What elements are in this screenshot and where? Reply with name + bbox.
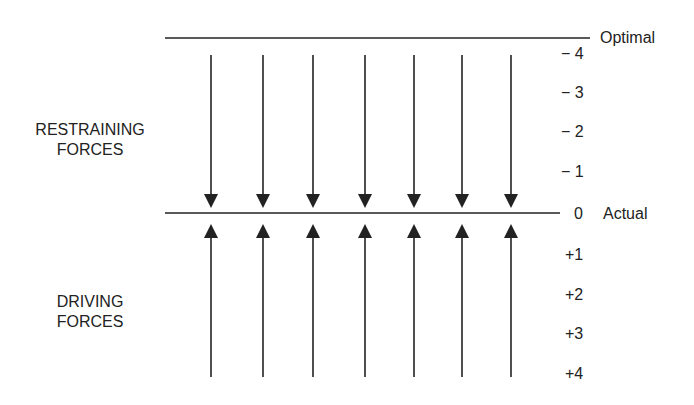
scale-tick-minus-4: − 4 xyxy=(561,44,584,64)
arrow-down-icon xyxy=(306,194,320,208)
arrow-down-icon xyxy=(407,194,421,208)
driving-forces-label: DRIVING FORCES xyxy=(35,292,145,332)
arrow-down-icon xyxy=(358,194,372,208)
driving-label-line2: FORCES xyxy=(35,312,145,332)
arrow-up-icon xyxy=(358,224,372,238)
scale-tick-plus-4: +4 xyxy=(565,364,583,384)
restraining-forces-label: RESTRAINING FORCES xyxy=(20,120,160,160)
restraining-label-line2: FORCES xyxy=(20,140,160,160)
arrow-up-icon xyxy=(407,224,421,238)
arrow-down-icon xyxy=(204,194,218,208)
arrow-up-icon xyxy=(256,224,270,238)
scale-tick-minus-3: − 3 xyxy=(561,83,584,103)
force-arrows xyxy=(204,55,518,377)
actual-label: Actual xyxy=(603,204,647,224)
arrow-down-icon xyxy=(256,194,270,208)
scale-tick-plus-2: +2 xyxy=(565,285,583,305)
optimal-label: Optimal xyxy=(600,28,655,48)
arrow-up-icon xyxy=(455,224,469,238)
restraining-label-line1: RESTRAINING xyxy=(20,120,160,140)
scale-tick-plus-3: +3 xyxy=(565,324,583,344)
scale-tick-minus-2: − 2 xyxy=(561,122,584,142)
arrow-down-icon xyxy=(504,194,518,208)
scale-tick-zero: 0 xyxy=(574,204,583,224)
arrow-down-icon xyxy=(455,194,469,208)
arrow-up-icon xyxy=(504,224,518,238)
scale-tick-plus-1: +1 xyxy=(565,245,583,265)
arrow-up-icon xyxy=(306,224,320,238)
scale-tick-minus-1: − 1 xyxy=(561,162,584,182)
driving-label-line1: DRIVING xyxy=(35,292,145,312)
force-field-diagram xyxy=(0,0,694,405)
arrow-up-icon xyxy=(204,224,218,238)
